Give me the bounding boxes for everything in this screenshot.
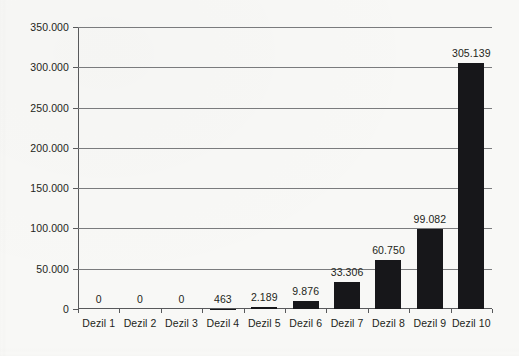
bar-value-label: 0 xyxy=(179,293,185,305)
bar-value-label: 33.306 xyxy=(331,266,364,278)
bar-group: 33.306Dezil 7 xyxy=(326,27,367,309)
bar xyxy=(251,307,277,309)
bar-value-label: 9.876 xyxy=(292,285,319,297)
bar-value-label: 305.139 xyxy=(452,47,491,59)
x-tick-mark xyxy=(161,309,162,313)
y-tick-label: 50.000 xyxy=(36,263,69,275)
x-category-label: Dezil 6 xyxy=(289,317,322,329)
bar-group: 0Dezil 3 xyxy=(161,27,202,309)
bar-group: 60.750Dezil 8 xyxy=(368,27,409,309)
bar-value-label: 0 xyxy=(137,293,143,305)
x-tick-mark xyxy=(285,309,286,313)
bar-value-label: 99.082 xyxy=(414,213,447,225)
x-tick-mark xyxy=(244,309,245,313)
x-tick-mark xyxy=(202,309,203,313)
x-category-label: Dezil 9 xyxy=(413,317,446,329)
x-tick-mark xyxy=(326,309,327,313)
y-tick-label: 0 xyxy=(63,303,69,315)
bar-value-label: 2.189 xyxy=(251,291,278,303)
x-tick-mark xyxy=(368,309,369,313)
y-tick-label: 200.000 xyxy=(30,142,69,154)
bar-group: 305.139Dezil 10 xyxy=(451,27,492,309)
x-category-label: Dezil 7 xyxy=(331,317,364,329)
bar-value-label: 60.750 xyxy=(372,244,405,256)
x-category-label: Dezil 10 xyxy=(452,317,491,329)
bar-group: 99.082Dezil 9 xyxy=(409,27,450,309)
x-tick-mark xyxy=(119,309,120,313)
x-category-label: Dezil 3 xyxy=(165,317,198,329)
x-category-label: Dezil 1 xyxy=(82,317,115,329)
bar-group: 463Dezil 4 xyxy=(202,27,243,309)
bar-group: 9.876Dezil 6 xyxy=(285,27,326,309)
bar-value-label: 463 xyxy=(214,293,232,305)
y-tick-label: 350.000 xyxy=(30,21,69,33)
bar-group: 0Dezil 2 xyxy=(119,27,160,309)
bar xyxy=(293,301,319,309)
x-tick-mark xyxy=(451,309,452,313)
bar-value-label: 0 xyxy=(96,293,102,305)
x-tick-mark xyxy=(409,309,410,313)
x-category-label: Dezil 2 xyxy=(124,317,157,329)
bar xyxy=(334,282,360,309)
bar-group: 0Dezil 1 xyxy=(78,27,119,309)
plot-area: 050.000100.000150.000200.000250.000300.0… xyxy=(78,27,492,309)
bar xyxy=(375,260,401,309)
x-tick-mark xyxy=(78,309,79,313)
bar-chart: 050.000100.000150.000200.000250.000300.0… xyxy=(0,0,519,356)
bar-group: 2.189Dezil 5 xyxy=(244,27,285,309)
y-tick-label: 300.000 xyxy=(30,61,69,73)
y-tick-label: 100.000 xyxy=(30,222,69,234)
y-tick-label: 250.000 xyxy=(30,102,69,114)
y-tick-label: 150.000 xyxy=(30,182,69,194)
bar xyxy=(458,63,484,309)
x-category-label: Dezil 5 xyxy=(248,317,281,329)
x-category-label: Dezil 4 xyxy=(206,317,239,329)
bars-layer: 0Dezil 10Dezil 20Dezil 3463Dezil 42.189D… xyxy=(78,27,492,309)
bar xyxy=(417,229,443,309)
x-category-label: Dezil 8 xyxy=(372,317,405,329)
x-tick-mark xyxy=(492,309,493,313)
